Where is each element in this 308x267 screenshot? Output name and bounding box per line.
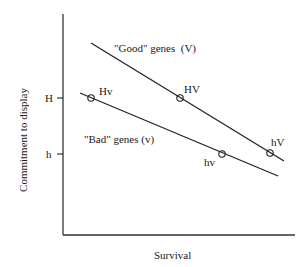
x-axis-label: Survival (154, 249, 191, 261)
tick-label-H: H (45, 92, 53, 104)
bad-genes-label: "Bad" genes (v) (84, 133, 154, 146)
point-label-hV: hV (271, 136, 285, 148)
point-label-hv: hv (204, 156, 216, 168)
y-axis-label: Commitment to display (17, 88, 29, 192)
good-genes-label: "Good" genes (V) (114, 42, 196, 55)
point-label-Hv: Hv (99, 85, 113, 97)
tick-label-h: h (46, 148, 52, 160)
point-label-HV: HV (184, 83, 200, 95)
diagram: H h "Good" genes (V) "Bad" genes (v) Hv … (0, 0, 308, 267)
